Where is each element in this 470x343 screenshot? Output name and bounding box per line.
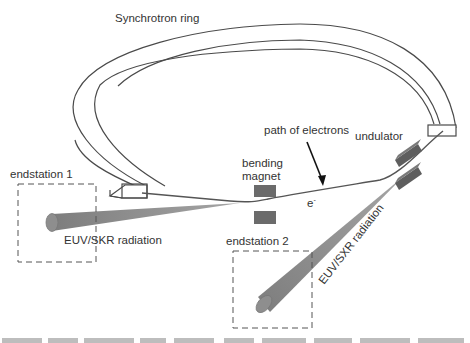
cropped-caption <box>0 336 470 343</box>
undulator <box>395 139 422 190</box>
label-magnet: magnet <box>242 170 281 182</box>
label-electron: e- <box>307 196 316 209</box>
synchrotron-diagram: Synchrotron ring path of electrons undul… <box>0 0 470 343</box>
label-undulator: undulator <box>355 130 403 142</box>
path-arrow <box>307 142 326 186</box>
label-path-of-electrons: path of electrons <box>264 124 349 136</box>
ring-right-end <box>428 125 456 136</box>
label-endstation-2: endstation 2 <box>226 235 289 247</box>
ring-left-end <box>110 184 147 198</box>
radiation-beam-1 <box>46 203 240 232</box>
label-radiation-1: EUV/SKR radiation <box>64 234 162 246</box>
label-synchrotron-ring: Synchrotron ring <box>115 12 199 24</box>
bending-magnet <box>254 185 276 224</box>
label-bending: bending <box>242 157 283 169</box>
label-endstation-1: endstation 1 <box>10 168 73 180</box>
